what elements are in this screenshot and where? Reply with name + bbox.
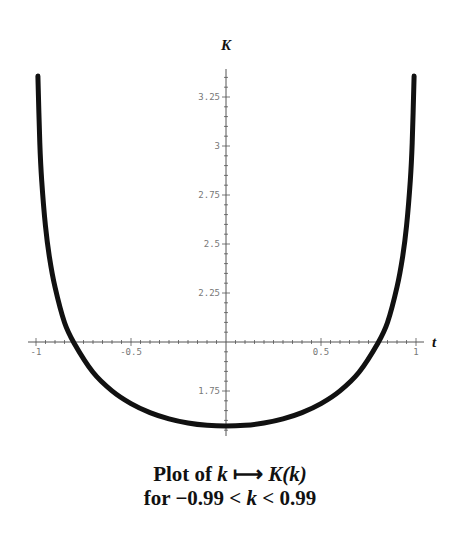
caption-prefix: Plot of: [153, 462, 217, 486]
x-tick-label: -1: [31, 347, 42, 357]
y-axis-title: K: [220, 37, 232, 53]
x-tick-label: -0.5: [120, 347, 142, 357]
y-tick-label: 2.75: [198, 190, 220, 200]
y-tick-label: 3: [215, 141, 220, 151]
x-tick-label: 0.5: [313, 347, 329, 357]
x-axis-title: t: [432, 334, 437, 350]
caption-range-var: k: [247, 486, 258, 510]
caption-range-prefix: for −0.99 <: [144, 486, 247, 510]
y-tick-label: 2.5: [204, 239, 220, 249]
caption-func: K(k): [268, 462, 307, 486]
plot-area: -1-0.50.511.752.252.52.7533.25 K t: [0, 0, 460, 450]
caption-var: k: [217, 462, 228, 486]
caption-line-1: Plot of k ⟼ K(k): [0, 462, 460, 486]
caption-range-suffix: < 0.99: [257, 486, 316, 510]
x-tick-label: 1: [413, 347, 418, 357]
y-tick-label: 2.25: [198, 288, 220, 298]
y-tick-label: 3.25: [198, 92, 220, 102]
y-tick-label: 1.75: [198, 386, 220, 396]
caption-line-2: for −0.99 < k < 0.99: [0, 486, 460, 510]
maps-to-arrow: ⟼: [228, 462, 269, 486]
